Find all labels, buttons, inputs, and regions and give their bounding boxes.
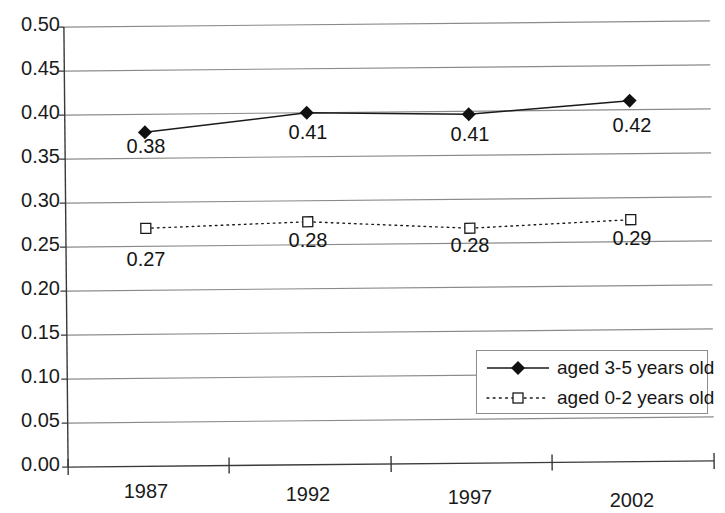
open-square-icon	[483, 382, 553, 414]
data-label: 0.28	[432, 235, 508, 255]
series-aged-0-2-years-old	[141, 214, 636, 237]
gridline	[66, 285, 712, 291]
series-aged-3-5-years-old	[138, 94, 637, 140]
x-axis-line	[68, 453, 714, 475]
series-line	[145, 101, 630, 133]
data-label: 0.41	[270, 122, 346, 142]
y-axis-line	[58, 27, 68, 467]
gridline	[64, 21, 710, 27]
data-label: 0.27	[108, 249, 184, 269]
data-point-marker	[465, 223, 475, 233]
data-point-marker	[462, 107, 476, 121]
series-line	[146, 219, 631, 232]
data-point-marker	[141, 223, 151, 233]
line-chart: 0.50 0.45 0.40 0.35 0.30 0.25 0.20 0.15 …	[0, 0, 725, 513]
legend-item-aged-3-5-years-old: aged 3-5 years old	[477, 352, 707, 384]
gridline	[68, 417, 714, 423]
data-label: 0.29	[594, 228, 670, 248]
gridline	[64, 65, 710, 71]
legend-label: aged 3-5 years old	[557, 356, 714, 380]
data-point-marker	[303, 217, 313, 227]
data-label: 0.42	[594, 115, 670, 135]
legend: aged 3-5 years old aged 0-2 years old	[476, 350, 708, 414]
data-point-marker	[626, 215, 636, 225]
data-label: 0.41	[432, 124, 508, 144]
x-axis-tick-label: 1987	[108, 481, 184, 501]
x-axis-tick-label: 1992	[270, 484, 346, 504]
data-label: 0.38	[108, 136, 184, 156]
data-point-marker	[300, 106, 314, 120]
filled-diamond-icon	[483, 352, 553, 384]
x-axis-tick-label: 1997	[432, 487, 508, 507]
legend-label: aged 0-2 years old	[557, 386, 714, 410]
gridline	[66, 197, 712, 203]
data-point-marker	[623, 94, 637, 108]
data-label: 0.28	[270, 230, 346, 250]
x-axis-tick-label: 2002	[594, 490, 670, 510]
gridline	[67, 329, 713, 335]
legend-item-aged-0-2-years-old: aged 0-2 years old	[477, 382, 707, 414]
